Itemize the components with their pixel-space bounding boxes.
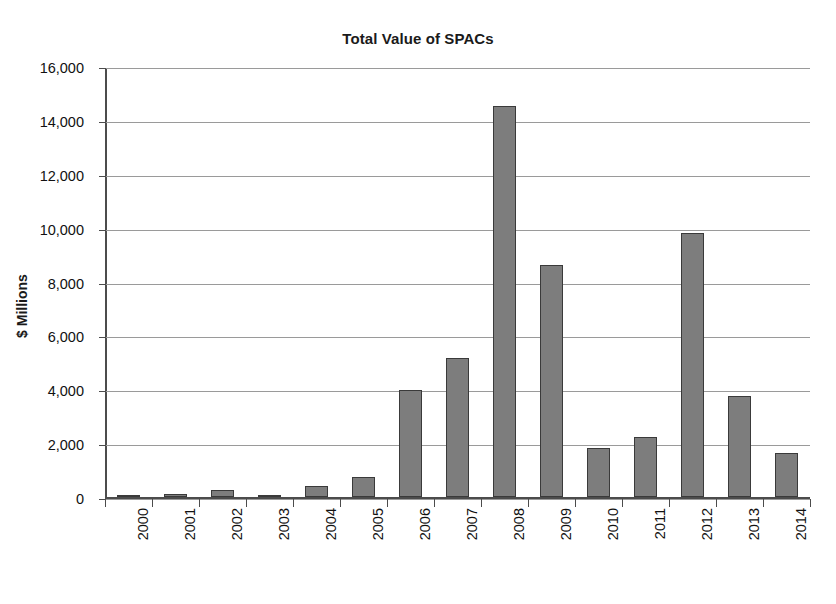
x-axis-tick (340, 499, 341, 507)
bar (399, 390, 422, 497)
gridline (105, 176, 810, 177)
y-axis-tick (99, 445, 106, 446)
x-axis-tick-label: 2004 (323, 508, 339, 578)
bar (117, 495, 140, 497)
y-axis-tick-label: 12,000 (40, 168, 84, 184)
y-axis-tick (99, 122, 106, 123)
x-axis-tick-label: 2007 (464, 508, 480, 578)
x-axis-tick (622, 499, 623, 507)
x-axis-tick-label: 2000 (135, 508, 151, 578)
gridline (105, 230, 810, 231)
gridline (105, 68, 810, 69)
y-axis-tick (99, 337, 106, 338)
bar (587, 448, 610, 497)
x-axis-tick (481, 499, 482, 507)
y-axis-tick-label: 0 (76, 491, 84, 507)
y-axis-tick-label: 8,000 (48, 276, 84, 292)
x-axis-tick-label: 2011 (652, 508, 668, 578)
x-axis-tick-label: 2001 (182, 508, 198, 578)
x-axis-tick (434, 499, 435, 507)
chart-screenshot: Total Value of SPACs $ Millions 02,0004,… (0, 0, 836, 604)
gridline (105, 122, 810, 123)
x-axis-tick (810, 499, 811, 507)
x-axis-tick (575, 499, 576, 507)
bar (164, 494, 187, 497)
y-axis-tick (99, 68, 106, 69)
x-axis-tick (763, 499, 764, 507)
x-axis-tick-label: 2013 (746, 508, 762, 578)
x-axis-ticks (105, 499, 810, 507)
y-axis-tick (99, 391, 106, 392)
x-axis-tick (105, 499, 106, 507)
x-axis-tick (199, 499, 200, 507)
bar (775, 453, 798, 497)
x-axis-tick-label: 2006 (417, 508, 433, 578)
x-axis-tick (293, 499, 294, 507)
x-axis-tick (387, 499, 388, 507)
y-axis-tick-labels: 02,0004,0006,0008,00010,00012,00014,0001… (0, 68, 96, 499)
x-axis-tick (152, 499, 153, 507)
bar (728, 396, 751, 497)
x-axis-tick-label: 2002 (229, 508, 245, 578)
x-axis-tick (528, 499, 529, 507)
bar (305, 486, 328, 497)
bar (493, 106, 516, 497)
y-axis-tick-label: 16,000 (40, 60, 84, 76)
x-axis-tick-labels: 2000200120022003200420052006200720082009… (105, 508, 810, 578)
chart-title: Total Value of SPACs (0, 30, 836, 47)
bar (258, 495, 281, 497)
x-axis-tick (669, 499, 670, 507)
x-axis-tick-label: 2010 (605, 508, 621, 578)
x-axis-tick (716, 499, 717, 507)
x-axis-tick-label: 2003 (276, 508, 292, 578)
y-axis-tick-label: 2,000 (48, 437, 84, 453)
x-axis-tick-label: 2014 (793, 508, 809, 578)
y-axis-tick (99, 284, 106, 285)
y-axis-tick (99, 176, 106, 177)
x-axis-tick-label: 2012 (699, 508, 715, 578)
x-axis-tick-label: 2008 (511, 508, 527, 578)
gridline (105, 337, 810, 338)
plot-area (105, 68, 810, 499)
bar (681, 233, 704, 497)
x-axis-tick-label: 2009 (558, 508, 574, 578)
y-axis-tick (99, 230, 106, 231)
bar (446, 358, 469, 497)
bar (352, 477, 375, 497)
x-axis-tick-label: 2005 (370, 508, 386, 578)
bar (634, 437, 657, 497)
y-axis-tick-label: 4,000 (48, 383, 84, 399)
gridline (105, 284, 810, 285)
y-axis-tick-label: 6,000 (48, 329, 84, 345)
y-axis-tick-label: 14,000 (40, 114, 84, 130)
bar (540, 265, 563, 497)
y-axis-tick-label: 10,000 (40, 222, 84, 238)
x-axis-tick (246, 499, 247, 507)
bar (211, 490, 234, 497)
